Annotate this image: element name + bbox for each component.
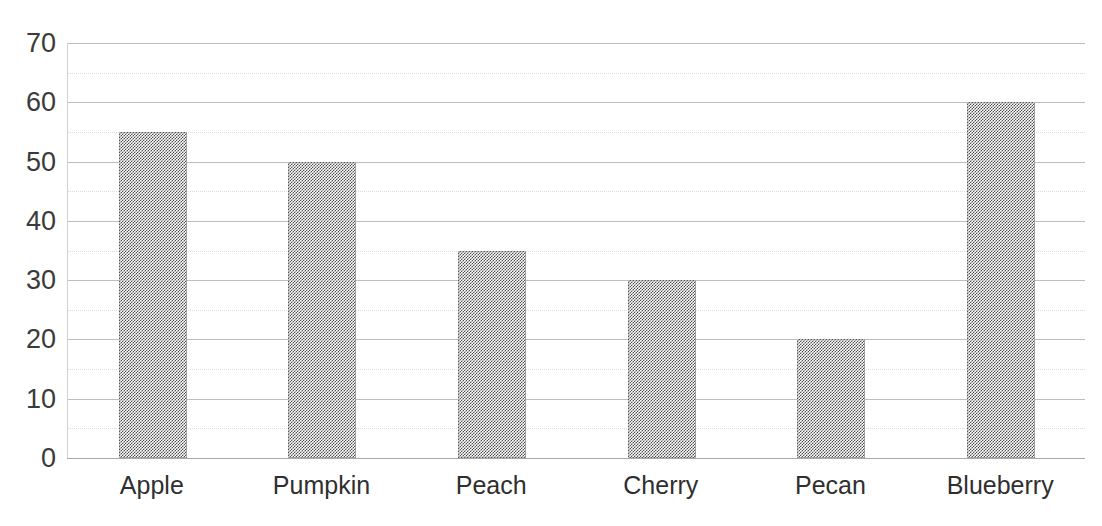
bars-layer (68, 43, 1085, 458)
x-axis-tick-label: Peach (406, 472, 576, 500)
y-axis-tick-label: 10 (4, 385, 56, 412)
x-axis-tick-labels: ApplePumpkinPeachCherryPecanBlueberry (67, 472, 1085, 512)
bar-slot (407, 43, 577, 458)
x-axis-tick-label: Cherry (576, 472, 746, 500)
bar[interactable] (797, 339, 865, 458)
bar-slot (68, 43, 238, 458)
bar-slot (916, 43, 1086, 458)
y-axis-tick-label: 40 (4, 207, 56, 234)
bar[interactable] (119, 132, 187, 458)
bar[interactable] (288, 162, 356, 458)
bar[interactable] (628, 280, 696, 458)
y-axis-tick-label: 0 (4, 445, 56, 472)
bar-slot (238, 43, 408, 458)
x-axis-tick-label: Pumpkin (237, 472, 407, 500)
bar[interactable] (967, 102, 1035, 458)
bar-slot (747, 43, 917, 458)
y-axis-tick-label: 50 (4, 148, 56, 175)
plot-area (67, 43, 1085, 458)
y-axis-tick-label: 60 (4, 89, 56, 116)
x-axis-tick-label: Apple (67, 472, 237, 500)
y-axis-tick-label: 30 (4, 267, 56, 294)
y-axis-tick-label: 20 (4, 326, 56, 353)
y-axis-tick-label: 70 (4, 30, 56, 57)
x-axis-tick-label: Blueberry (915, 472, 1085, 500)
bar-slot (577, 43, 747, 458)
bar[interactable] (458, 251, 526, 459)
x-axis-tick-label: Pecan (746, 472, 916, 500)
bar-chart: Pieces of Pie Sold 010203040506070 Apple… (0, 0, 1102, 526)
chart-title: Pieces of Pie Sold (0, 0, 1102, 5)
x-axis-line (67, 458, 1085, 459)
